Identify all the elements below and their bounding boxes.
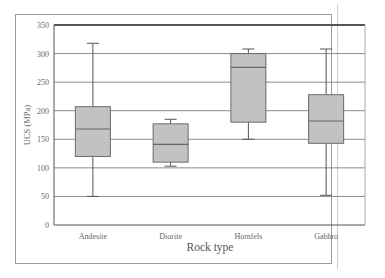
x-category-label: Andesite: [79, 232, 108, 241]
box-series: [75, 43, 343, 196]
y-axis-label: UCS (MPa): [22, 105, 32, 146]
y-tick-label: 50: [41, 192, 49, 201]
y-tick-label: 0: [45, 221, 49, 230]
y-tick-label: 250: [37, 78, 49, 87]
iqr-box: [153, 124, 188, 162]
y-tick-label: 200: [37, 107, 49, 116]
y-axis-ticks: 050100150200250300350: [37, 21, 49, 230]
box-plot-chart: 050100150200250300350 AndesiteDioriteHor…: [0, 0, 385, 278]
x-axis-categories: AndesiteDioriteHornfelsGabbro: [79, 232, 338, 241]
x-axis-label: Rock type: [187, 241, 234, 254]
iqr-box: [309, 95, 344, 144]
y-tick-label: 350: [37, 21, 49, 30]
iqr-box: [231, 54, 266, 123]
box-andesite: [75, 43, 110, 196]
x-category-label: Gabbro: [314, 232, 338, 241]
x-category-label: Hornfels: [234, 232, 262, 241]
y-tick-label: 300: [37, 50, 49, 59]
box-hornfels: [231, 49, 266, 139]
box-diorite: [153, 119, 188, 166]
box-gabbro: [309, 49, 344, 195]
iqr-box: [75, 107, 110, 157]
y-tick-label: 150: [37, 135, 49, 144]
y-tick-label: 100: [37, 164, 49, 173]
x-category-label: Diorite: [159, 232, 182, 241]
